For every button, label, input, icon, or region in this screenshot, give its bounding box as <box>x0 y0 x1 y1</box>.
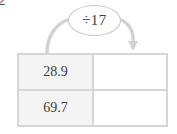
operation-bubble: ÷17 <box>68 5 121 36</box>
operation-label: ÷17 <box>82 13 107 28</box>
input-cell-row-2: 69.7 <box>17 90 93 127</box>
output-cell-row-1[interactable] <box>93 53 168 90</box>
output-cell-row-2[interactable] <box>93 90 168 127</box>
function-table: 28.9 69.7 <box>17 53 168 127</box>
function-machine-worksheet: 2 ÷17 28.9 69.7 <box>0 0 177 134</box>
table-row: 28.9 <box>17 53 168 90</box>
input-cell-row-1: 28.9 <box>17 53 93 90</box>
table-row: 69.7 <box>17 90 168 127</box>
